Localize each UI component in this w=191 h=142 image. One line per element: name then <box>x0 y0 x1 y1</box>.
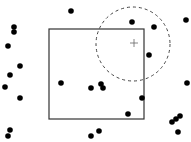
data-point <box>88 85 94 91</box>
data-point <box>184 80 190 86</box>
data-point <box>11 24 17 30</box>
point-range-diagram <box>0 0 191 142</box>
data-point <box>125 111 131 117</box>
data-point <box>68 8 74 14</box>
data-point <box>139 95 145 101</box>
data-point <box>151 24 157 30</box>
data-point <box>17 95 23 101</box>
data-point <box>7 72 13 78</box>
data-point <box>7 127 13 133</box>
data-point <box>96 128 102 134</box>
background <box>0 0 191 142</box>
data-point <box>183 17 189 23</box>
data-point <box>5 43 11 49</box>
data-point <box>100 85 106 91</box>
data-point <box>129 19 135 25</box>
data-point <box>88 133 94 139</box>
data-point <box>58 80 64 86</box>
data-point <box>177 113 183 119</box>
data-point <box>146 52 152 58</box>
data-point <box>11 29 17 35</box>
data-point <box>5 133 11 139</box>
data-point <box>175 129 181 135</box>
data-point <box>17 63 23 69</box>
data-point <box>2 84 8 90</box>
